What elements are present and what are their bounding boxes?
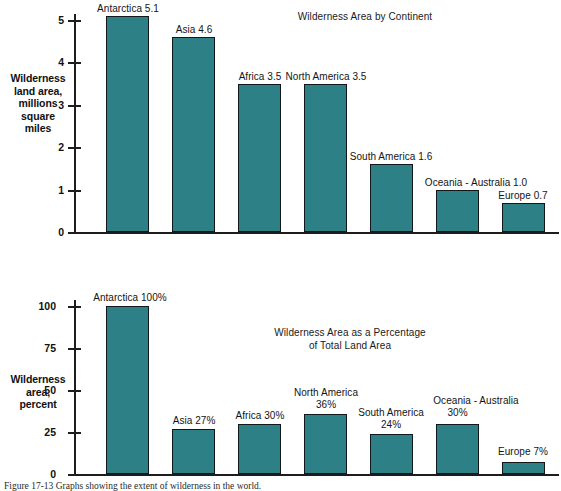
y-tick-label-25: 25 (30, 426, 56, 438)
chart-wilderness-land-area: Wilderness Area by Continent Wilderness … (0, 0, 561, 250)
bar-label-oceania-bottom-value: 30% (400, 407, 515, 419)
chart-title-bottom-line2: of Total Land Area (230, 339, 470, 352)
bar-label-north-america-top: North America 3.5 (260, 71, 392, 83)
bar-europe-bottom (502, 462, 545, 474)
bar-label-south-america-bottom-value: 24% (343, 419, 439, 431)
chart-title-bottom-line1: Wilderness Area as a Percentage (230, 326, 470, 339)
bar-antarctica-top (106, 16, 149, 232)
y-tick-mark-5 (68, 20, 81, 22)
y-tick-label-3: 3 (38, 99, 64, 111)
bar-oceania-top (436, 190, 479, 232)
y-tick-mark-2 (68, 147, 81, 149)
y-tick-mark-75 (68, 348, 81, 350)
bar-label-north-america-bottom: North America (278, 387, 374, 399)
y-tick-mark-50 (68, 390, 81, 392)
bar-asia-bottom (172, 429, 215, 474)
y-tick-mark-0 (68, 232, 81, 234)
bar-africa-top (238, 84, 281, 232)
y-tick-mark-3 (68, 105, 81, 107)
bar-label-africa-bottom: Africa 30% (214, 410, 306, 422)
y-tick-label-2: 2 (38, 141, 64, 153)
bar-asia-top (172, 37, 215, 232)
bar-africa-bottom (238, 424, 281, 474)
y-axis-line-top (74, 14, 76, 234)
x-axis-line-top (74, 232, 559, 234)
bar-label-europe-bottom: Europe 7% (478, 446, 561, 458)
y-tick-mark-4 (68, 62, 81, 64)
chart-title-top: Wilderness Area by Continent (240, 10, 490, 23)
bar-label-antarctica-top: Antarctica 5.1 (72, 3, 184, 15)
y-tick-label-0: 0 (38, 226, 64, 238)
y-tick-mark-25 (68, 432, 81, 434)
bar-antarctica-bottom (106, 306, 149, 474)
y-tick-label-50: 50 (30, 384, 56, 396)
y-tick-label-4: 4 (38, 56, 64, 68)
y-axis-line-bottom (74, 300, 76, 476)
bar-label-antarctica-bottom: Antarctica 100% (70, 292, 190, 304)
bar-label-europe-top: Europe 0.7 (478, 190, 561, 202)
bar-south-america-top (370, 164, 413, 232)
figure-caption: Figure 17-13 Graphs showing the extent o… (4, 481, 557, 491)
bar-label-oceania-top: Oceania - Australia 1.0 (400, 177, 552, 189)
y-tick-mark-0b (68, 474, 81, 476)
bar-south-america-bottom (370, 434, 413, 474)
y-tick-label-5: 5 (38, 14, 64, 26)
bar-oceania-bottom (436, 424, 479, 474)
y-tick-label-1: 1 (38, 184, 64, 196)
bar-label-south-america-top: South America 1.6 (325, 151, 457, 163)
bar-north-america-bottom (304, 414, 347, 474)
x-axis-line-bottom (74, 474, 559, 476)
y-tick-label-0b: 0 (30, 468, 56, 480)
chart-wilderness-percentage: Wilderness Area as a Percentage of Total… (0, 250, 561, 488)
y-tick-label-75: 75 (30, 342, 56, 354)
bar-label-oceania-bottom: Oceania - Australia (400, 395, 552, 407)
y-tick-mark-100 (68, 306, 81, 308)
y-tick-mark-1 (68, 190, 81, 192)
bar-europe-top (502, 203, 545, 232)
bar-label-asia-top: Asia 4.6 (148, 24, 240, 36)
y-tick-label-100: 100 (30, 300, 56, 312)
